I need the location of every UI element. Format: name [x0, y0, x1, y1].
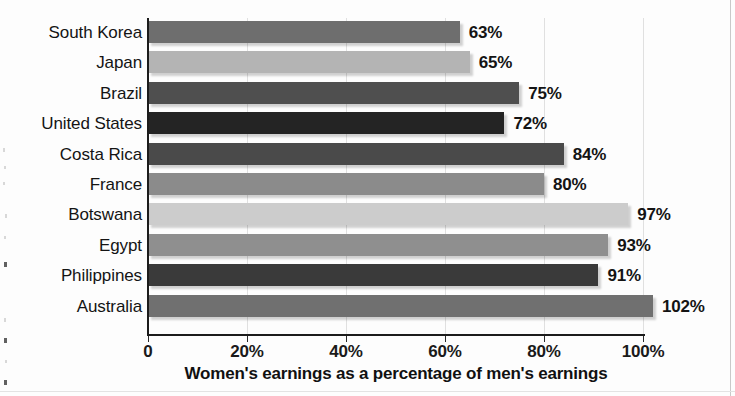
bar — [148, 234, 608, 256]
plot-area: 63%65%75%72%84%80%97%93%91%102% — [148, 18, 644, 336]
bar-value-label: 80% — [553, 175, 586, 195]
x-axis-line — [147, 334, 645, 336]
chart-page: 63%65%75%72%84%80%97%93%91%102% South Ko… — [0, 0, 735, 396]
x-tick-label-0: 0 — [143, 342, 152, 362]
bar — [148, 143, 564, 165]
bar — [148, 173, 544, 195]
category-label: Australia — [0, 297, 142, 317]
bar — [148, 112, 504, 134]
bar-value-label: 75% — [528, 84, 561, 104]
bar-value-label: 93% — [617, 236, 650, 256]
bar-value-label: 65% — [479, 53, 512, 73]
x-tick-label-20: 20% — [230, 342, 263, 362]
bar-value-label: 102% — [662, 297, 705, 317]
category-label: Botswana — [0, 205, 142, 225]
category-label: Brazil — [0, 84, 142, 104]
category-label: Egypt — [0, 236, 142, 256]
bar — [148, 264, 598, 286]
bar-chart: 63%65%75%72%84%80%97%93%91%102% South Ko… — [0, 0, 735, 396]
bar — [148, 203, 628, 225]
bar — [148, 82, 519, 104]
category-label: Japan — [0, 53, 142, 73]
bar-value-label: 97% — [637, 205, 670, 225]
bar-value-label: 63% — [469, 23, 502, 43]
category-label: France — [0, 175, 142, 195]
bar — [148, 295, 653, 317]
category-label: United States — [0, 114, 142, 134]
x-tick-label-100: 100% — [622, 342, 665, 362]
bar-value-label: 72% — [513, 114, 546, 134]
x-tick-label-60: 60% — [428, 342, 461, 362]
bar — [148, 51, 470, 73]
category-label: South Korea — [0, 23, 142, 43]
category-label: Philippines — [0, 266, 142, 286]
x-axis-title: Women's earnings as a percentage of men'… — [148, 364, 644, 384]
y-axis-line — [147, 18, 149, 336]
bar — [148, 21, 460, 43]
category-label: Costa Rica — [0, 145, 142, 165]
bar-value-label: 84% — [573, 145, 606, 165]
x-tick-label-40: 40% — [329, 342, 362, 362]
bar-value-label: 91% — [607, 266, 640, 286]
x-tick-label-80: 80% — [527, 342, 560, 362]
